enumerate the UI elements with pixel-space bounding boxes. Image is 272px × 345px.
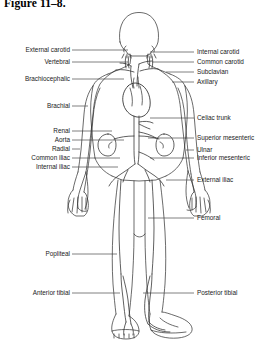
label-inferior-mesenteric: Inferior mesenteric [197,154,250,161]
label-common-carotid: Common carotid [197,58,244,65]
label-posterior-tibial: Posterior tibial [197,289,238,296]
figure-page: Figure 11–8. [0,0,272,345]
left-hand-outline [68,190,89,216]
head-outline [119,13,158,57]
label-brachial: Brachial [47,102,70,109]
label-brachiocephalic: Brachiocephalic [25,75,70,82]
label-subclavian: Subclavian [197,68,228,75]
label-axillary: Axillary [197,78,218,85]
right-hand-outline [190,190,211,216]
heart [123,77,150,117]
abdominal-aorta-and-branches [98,116,174,335]
legs-outline [112,180,166,316]
label-celiac-trunk: Celiac trunk [197,114,231,121]
label-anterior-tibial: Anterior tibial [33,289,70,296]
label-aorta: Aorta [55,136,70,143]
label-renal: Renal [53,127,70,134]
label-common-iliac: Common iliac [31,154,70,161]
label-femoral: Femoral [197,214,220,221]
label-superior-mesenteric: Superior mesenteric [197,134,254,141]
label-external-carotid: External carotid [26,46,70,53]
label-radial: Radial [52,145,70,152]
label-internal-iliac: Internal iliac [36,163,70,170]
label-ulnar: Ulnar [197,146,212,153]
label-external-iliac: External iliac [197,176,233,183]
label-internal-carotid: Internal carotid [197,48,239,55]
label-popliteal: Popliteal [45,250,70,257]
neck-and-shoulders [93,56,185,86]
aortic-arch-and-great-vessels [116,54,158,88]
label-vertebral: Vertebral [44,58,70,65]
right-foot-outline [149,312,192,338]
